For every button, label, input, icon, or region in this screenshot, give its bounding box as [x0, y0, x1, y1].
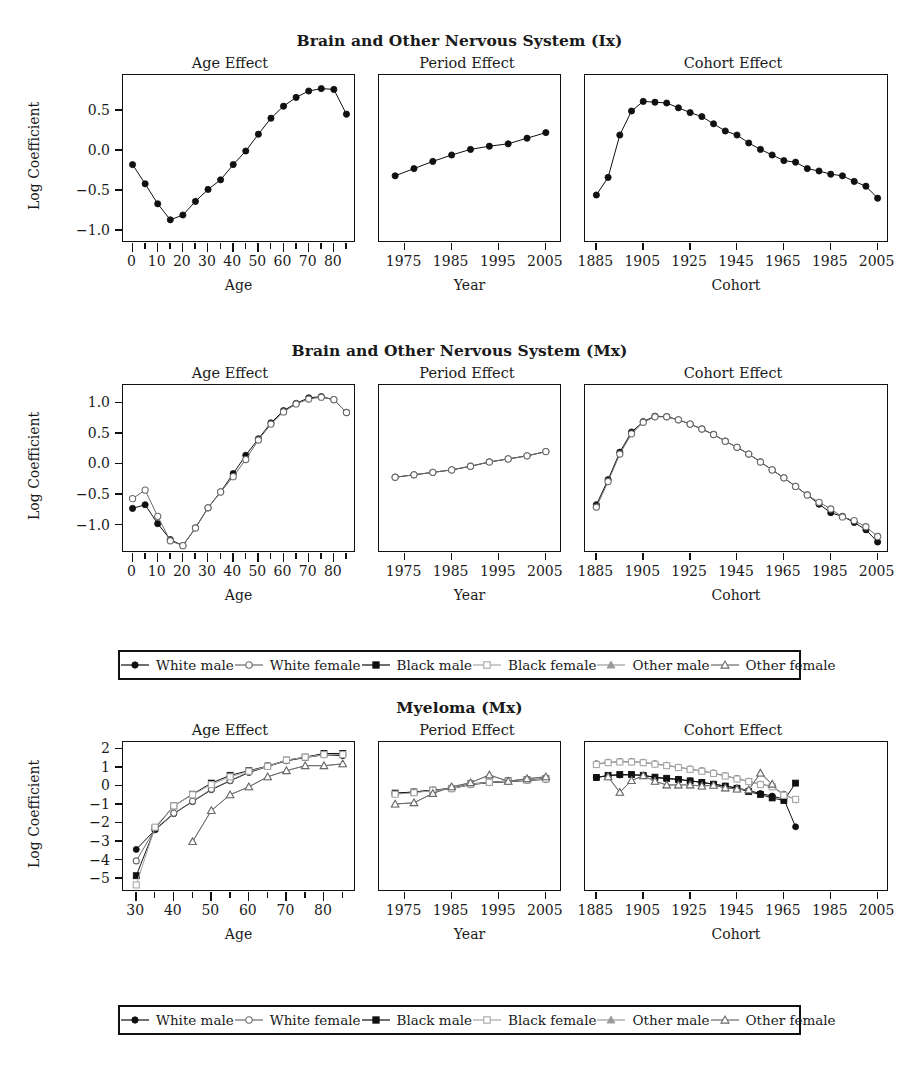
legend-item[interactable]: Black male — [361, 657, 472, 673]
legend-swatch — [361, 1013, 391, 1027]
x-tick-mark — [283, 243, 284, 252]
legend-item[interactable]: White male — [120, 1012, 234, 1028]
x-tick-mark — [877, 892, 878, 899]
x-tick-label: 1965 — [765, 902, 801, 918]
legend-swatch — [234, 1013, 264, 1027]
x-tick-mark — [451, 892, 452, 899]
y-tick-mark — [115, 785, 122, 786]
x-minor-tick — [245, 553, 246, 559]
chart-panel — [378, 741, 561, 891]
y-tick-mark — [115, 803, 122, 804]
y-tick-mark — [115, 877, 122, 878]
chart-panel — [122, 741, 355, 891]
x-tick-mark — [830, 243, 831, 250]
chart-panel — [122, 384, 355, 552]
y-tick-mark — [115, 189, 122, 190]
panel-title-age-1: Age Effect — [105, 52, 355, 74]
x-tick-label: 40 — [223, 253, 241, 269]
y-tick-label: −1 — [89, 796, 110, 812]
x-tick-label: 10 — [148, 563, 166, 579]
x-tick-label: 0 — [127, 563, 136, 579]
legend-item[interactable]: Other female — [710, 657, 836, 673]
x-tick-mark — [323, 892, 324, 901]
x-tick-label: 1885 — [578, 563, 614, 579]
legend-item[interactable]: Other male — [596, 1012, 709, 1028]
x-tick-label: 30 — [198, 253, 216, 269]
chart-panel — [378, 384, 561, 552]
panel-title-period-2: Period Effect — [372, 362, 562, 384]
x-tick-mark — [498, 892, 499, 899]
legend-item[interactable]: White female — [234, 1012, 361, 1028]
x-tick-mark — [257, 243, 258, 252]
x-tick-mark — [498, 243, 499, 250]
x-axis-label: Cohort — [712, 926, 761, 942]
legend-label: Other female — [745, 657, 836, 673]
x-minor-tick — [169, 243, 170, 249]
x-minor-tick — [295, 243, 296, 249]
y-tick-mark — [115, 493, 122, 494]
x-tick-label: 1945 — [718, 563, 754, 579]
x-tick-label: 1925 — [671, 253, 707, 269]
legend-item[interactable]: White female — [234, 657, 361, 673]
x-minor-tick — [342, 892, 343, 898]
figure-root: Brain and Other Nervous System (Ix) Age … — [0, 0, 919, 1084]
x-tick-mark — [132, 553, 133, 562]
legend-label: Other male — [631, 657, 709, 673]
x-tick-mark — [451, 553, 452, 560]
x-tick-label: 2005 — [859, 902, 895, 918]
legend-label: Black female — [507, 657, 596, 673]
legend-item[interactable]: Black female — [472, 657, 596, 673]
y-tick-label: 0.0 — [88, 455, 110, 471]
x-minor-tick — [144, 243, 145, 249]
x-tick-label: 1995 — [480, 253, 516, 269]
x-tick-mark — [545, 243, 546, 250]
legend-label: Black female — [507, 1012, 596, 1028]
panel-titles-2: Age Effect Period Effect Cohort Effect — [0, 362, 919, 384]
y-axis-label: Log Coefficient — [26, 412, 42, 520]
panel-titles-1: Age Effect Period Effect Cohort Effect — [0, 52, 919, 74]
y-tick-label: −5 — [89, 870, 110, 886]
y-tick-label: −1.0 — [76, 517, 110, 533]
x-tick-mark — [736, 892, 737, 899]
x-tick-label: 1885 — [578, 902, 614, 918]
chart-title-2: Brain and Other Nervous System (Mx) — [0, 340, 919, 362]
x-tick-mark — [545, 892, 546, 899]
legend-label: White female — [269, 657, 361, 673]
x-tick-mark — [157, 243, 158, 252]
x-minor-tick — [267, 892, 268, 898]
chart-panel — [378, 74, 561, 242]
x-tick-label: 2005 — [859, 253, 895, 269]
x-tick-mark — [157, 553, 158, 562]
legend-item[interactable]: White male — [120, 657, 234, 673]
y-tick-mark — [115, 840, 122, 841]
y-tick-label: 1.0 — [88, 394, 110, 410]
x-tick-label: 50 — [248, 253, 266, 269]
legend-item[interactable]: Black male — [361, 1012, 472, 1028]
x-tick-mark — [232, 553, 233, 562]
panel-title-period-3: Period Effect — [372, 719, 562, 741]
x-tick-label: 1975 — [386, 253, 422, 269]
x-tick-mark — [404, 892, 405, 899]
legend-item[interactable]: Black female — [472, 1012, 596, 1028]
x-tick-label: 1985 — [433, 563, 469, 579]
y-axis-label: Log Coefficient — [26, 760, 42, 868]
x-tick-mark — [283, 553, 284, 562]
x-tick-label: 2005 — [527, 253, 563, 269]
y-axis-label: Log Coefficient — [26, 102, 42, 210]
legend-swatch — [596, 1013, 626, 1027]
panel-titles-3: Age Effect Period Effect Cohort Effect — [0, 719, 919, 741]
x-tick-mark — [689, 553, 690, 560]
y-tick-mark — [115, 766, 122, 767]
panel-title-cohort-3: Cohort Effect — [578, 719, 888, 741]
legend-label: Other male — [631, 1012, 709, 1028]
x-tick-label: 10 — [148, 253, 166, 269]
x-tick-mark — [642, 892, 643, 899]
y-tick-label: 0 — [101, 777, 110, 793]
x-tick-mark — [404, 243, 405, 250]
legend-item[interactable]: Other female — [710, 1012, 836, 1028]
x-tick-label: 1945 — [718, 902, 754, 918]
legend-item[interactable]: Other male — [596, 657, 709, 673]
x-tick-mark — [333, 243, 334, 252]
y-tick-mark — [115, 229, 122, 230]
plot-area-1: Log Coefficient−1.0−0.50.00.501020304050… — [0, 74, 919, 299]
